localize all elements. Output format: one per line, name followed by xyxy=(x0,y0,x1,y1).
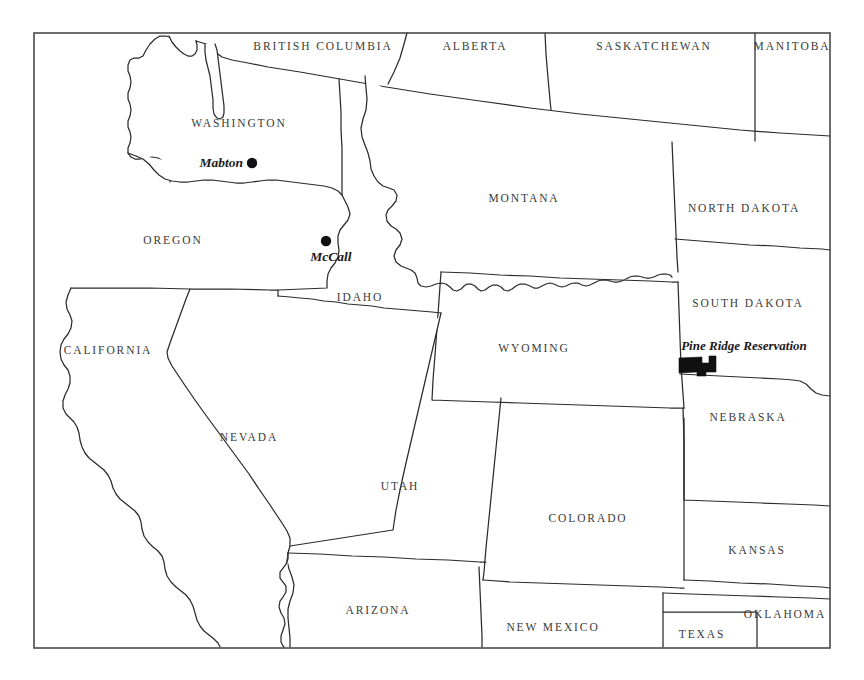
state-label-idaho: IDAHO xyxy=(337,291,384,303)
state-label-texas: TEXAS xyxy=(679,628,726,640)
western-us-map: BRITISH COLUMBIA ALBERTA SASKATCHEWAN MA… xyxy=(0,0,864,680)
province-label-alberta: ALBERTA xyxy=(443,40,508,52)
state-label-arizona: ARIZONA xyxy=(345,604,410,616)
city-dot-mabton xyxy=(247,158,257,168)
state-label-kansas: KANSAS xyxy=(728,544,785,556)
state-label-north-dakota: NORTH DAKOTA xyxy=(688,202,800,214)
state-label-oregon: OREGON xyxy=(143,234,202,246)
province-label-manitoba: MANITOBA xyxy=(754,40,831,52)
state-label-utah: UTAH xyxy=(381,480,420,492)
state-label-montana: MONTANA xyxy=(488,192,559,204)
province-label-british-columbia: BRITISH COLUMBIA xyxy=(253,40,392,52)
reservation-label-pine-ridge: Pine Ridge Reservation xyxy=(681,338,807,353)
state-label-california: CALIFORNIA xyxy=(64,344,153,356)
state-label-oklahoma: OKLAHOMA xyxy=(744,608,826,620)
state-label-washington: WASHINGTON xyxy=(191,117,286,129)
city-label-mccall: McCall xyxy=(309,249,352,264)
state-label-south-dakota: SOUTH DAKOTA xyxy=(692,297,804,309)
state-label-nebraska: NEBRASKA xyxy=(709,411,786,423)
state-label-nevada: NEVADA xyxy=(220,431,278,443)
state-label-wyoming: WYOMING xyxy=(498,342,569,354)
city-label-mabton: Mabton xyxy=(198,155,243,170)
map-container: BRITISH COLUMBIA ALBERTA SASKATCHEWAN MA… xyxy=(0,0,864,680)
province-label-saskatchewan: SASKATCHEWAN xyxy=(596,40,711,52)
state-label-colorado: COLORADO xyxy=(548,512,627,524)
state-label-new-mexico: NEW MEXICO xyxy=(506,621,599,633)
city-dot-mccall xyxy=(321,236,331,246)
